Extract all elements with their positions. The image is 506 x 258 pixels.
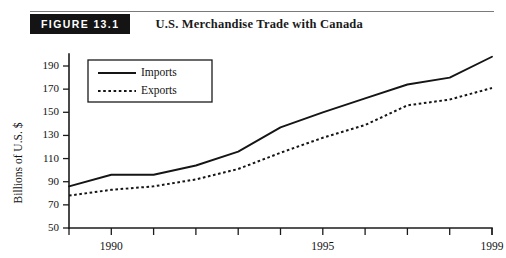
y-tick-label-190: 190 xyxy=(43,59,60,71)
y-tick-label-130: 130 xyxy=(43,128,60,140)
y-tick-label-50: 50 xyxy=(48,221,60,233)
y-axis-title: Billions of U.S. $ xyxy=(12,122,24,203)
figure-container: FIGURE 13.1 U.S. Merchandise Trade with … xyxy=(0,0,506,258)
x-tick-label-1999: 1999 xyxy=(481,240,504,252)
x-tick-label-1990: 1990 xyxy=(100,240,123,252)
y-tick-label-70: 70 xyxy=(48,198,60,210)
y-tick-label-150: 150 xyxy=(43,105,60,117)
x-axis: 199019951999 xyxy=(69,228,504,252)
figure-number-badge: FIGURE 13.1 xyxy=(30,14,130,34)
legend-label-exports: Exports xyxy=(141,84,177,97)
chart-plot-area: 507090110130150170190 199019951999 Billi… xyxy=(0,38,506,258)
y-tick-label-90: 90 xyxy=(48,175,60,187)
y-tick-label-170: 170 xyxy=(43,82,60,94)
x-tick-label-1995: 1995 xyxy=(311,240,334,252)
header-rule xyxy=(30,11,494,12)
series-line-exports xyxy=(69,88,492,196)
line-chart-svg: 507090110130150170190 199019951999 Billi… xyxy=(0,38,506,258)
figure-header: FIGURE 13.1 U.S. Merchandise Trade with … xyxy=(30,14,363,34)
y-axis: 507090110130150170190 xyxy=(43,54,70,233)
chart-legend: ImportsExports xyxy=(88,60,212,102)
figure-title: U.S. Merchandise Trade with Canada xyxy=(155,14,363,34)
legend-label-imports: Imports xyxy=(141,66,177,79)
y-tick-label-110: 110 xyxy=(43,152,60,164)
